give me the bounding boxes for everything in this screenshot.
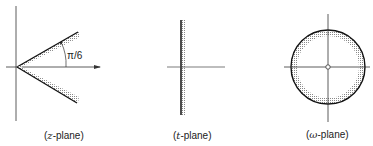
z-lower-hatch (17, 66, 79, 103)
caption-rest: -plane) (180, 130, 211, 141)
z-arrowhead-icon (94, 65, 101, 69)
w-origin-marker (326, 65, 330, 69)
z-lower-ray (17, 67, 77, 103)
caption-rest: -plane) (53, 130, 84, 141)
z-arc-marker (60, 42, 62, 44)
t-plane-caption: (t-plane) (173, 130, 212, 141)
w-plane-caption: (ω-plane) (306, 129, 349, 140)
z-angle-label: π/6 (67, 50, 82, 61)
conformal-map-diagram (0, 0, 373, 146)
caption-var: ω (309, 129, 317, 140)
z-plane-panel (6, 6, 101, 121)
t-plane-panel (167, 20, 225, 115)
caption-rest: -plane) (318, 129, 349, 140)
z-plane-caption: (z-plane) (44, 130, 84, 141)
w-plane-panel (284, 14, 370, 122)
